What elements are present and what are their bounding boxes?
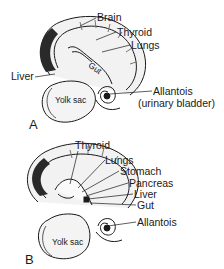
label-allantois-note-a: (urinary bladder) — [138, 98, 215, 109]
label-thyroid-a: Thyroid — [117, 27, 152, 38]
label-yolk-sac-a: Yolk sac — [55, 95, 86, 106]
panel-letter-a: A — [29, 118, 38, 131]
label-lungs-a: Lungs — [131, 40, 160, 51]
label-yolk-sac-b: Yolk sac — [52, 237, 83, 248]
panel-letter-b: B — [25, 253, 34, 266]
label-allantois-a: Allantois — [153, 86, 193, 97]
label-brain-a: Brain — [97, 12, 122, 23]
label-liver-a: Liver — [11, 71, 34, 82]
label-thyroid-b: Thyroid — [75, 140, 110, 151]
label-stomach-b: Stomach — [120, 166, 161, 177]
embryo-diagram — [0, 0, 224, 269]
label-gut-b: Gut — [137, 200, 154, 211]
label-allantois-b: Allantois — [137, 217, 177, 228]
